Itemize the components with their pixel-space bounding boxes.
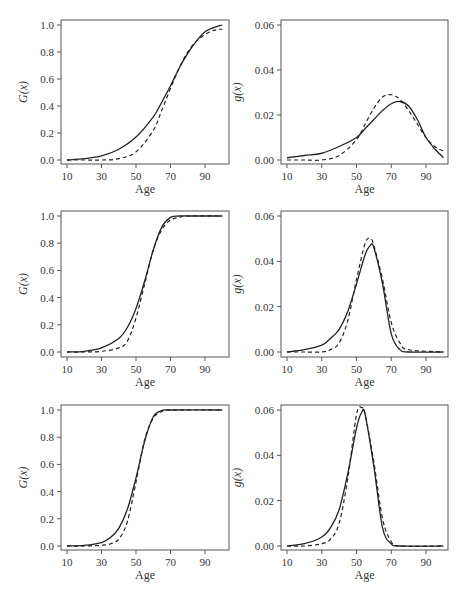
y-tick-label: 0.8 (40, 237, 54, 249)
y-axis-label: g(x) (230, 274, 244, 293)
y-axis-label: G(x) (16, 81, 30, 103)
x-tick-label: 30 (316, 170, 328, 182)
dashed-curve (287, 407, 443, 547)
x-tick-label: 90 (200, 363, 212, 375)
plot-frame (61, 405, 229, 550)
dashed-curve (67, 410, 222, 546)
y-tick-label: 0.6 (40, 264, 54, 276)
x-tick-label: 90 (421, 363, 433, 375)
x-tick-label: 70 (165, 556, 177, 568)
y-tick-label: 0.6 (40, 458, 54, 470)
y-tick-label: 1.0 (40, 404, 54, 416)
y-tick-label: 0.04 (255, 64, 275, 76)
solid-curve (67, 216, 222, 352)
x-tick-label: 10 (62, 170, 74, 182)
plot-frame (61, 20, 229, 164)
x-tick-label: 30 (96, 363, 108, 375)
plot-frame (281, 405, 448, 550)
y-tick-label: 0.00 (255, 540, 275, 552)
x-axis-label: Age (135, 375, 155, 389)
y-tick-label: 0.2 (40, 127, 54, 139)
x-tick-label: 10 (282, 170, 294, 182)
x-tick-label: 90 (421, 170, 433, 182)
y-axis-label: g(x) (230, 82, 244, 101)
y-tick-label: 0.0 (40, 154, 54, 166)
y-tick-label: 0.02 (255, 109, 274, 121)
y-axis-label: G(x) (16, 273, 30, 295)
solid-curve (67, 410, 222, 546)
y-tick-label: 0.8 (40, 431, 54, 443)
x-tick-label: 10 (282, 363, 294, 375)
x-tick-label: 50 (131, 556, 143, 568)
y-tick-label: 0.00 (255, 154, 275, 166)
x-tick-label: 70 (386, 556, 398, 568)
x-tick-label: 30 (316, 363, 328, 375)
x-tick-label: 70 (165, 363, 177, 375)
y-tick-label: 0.4 (40, 486, 54, 498)
x-tick-label: 90 (421, 556, 433, 568)
y-tick-label: 0.02 (255, 301, 274, 313)
plot-frame (281, 211, 448, 357)
y-tick-label: 0.06 (255, 210, 275, 222)
x-tick-label: 30 (96, 556, 108, 568)
x-axis-label: Age (135, 182, 155, 196)
x-axis-label: Age (355, 375, 375, 389)
y-tick-label: 0.4 (40, 100, 54, 112)
x-tick-label: 70 (165, 170, 177, 182)
x-tick-label: 70 (386, 170, 398, 182)
x-axis-label: Age (135, 568, 155, 582)
x-tick-label: 30 (96, 170, 108, 182)
chart-grid: 10305070900.00.20.40.60.81.0AgeG(x)10305… (0, 0, 464, 591)
dashed-curve (67, 29, 222, 160)
y-tick-label: 1.0 (40, 210, 54, 222)
y-tick-label: 0.04 (255, 449, 275, 461)
y-tick-label: 0.06 (255, 404, 275, 416)
y-tick-label: 1.0 (40, 19, 54, 31)
y-tick-label: 0.04 (255, 255, 275, 267)
solid-curve (67, 25, 222, 160)
solid-curve (287, 244, 443, 352)
x-tick-label: 90 (200, 170, 212, 182)
y-tick-label: 0.8 (40, 46, 54, 58)
x-axis-label: Age (355, 568, 375, 582)
y-tick-label: 0.6 (40, 73, 54, 85)
x-tick-label: 50 (351, 363, 363, 375)
y-tick-label: 0.0 (40, 346, 54, 358)
x-tick-label: 10 (62, 363, 74, 375)
plot-frame (61, 211, 229, 357)
y-tick-label: 0.0 (40, 540, 54, 552)
solid-curve (287, 409, 443, 546)
panel-row3-right: 10305070900.000.020.040.06Ageg(x) (230, 404, 448, 582)
x-tick-label: 50 (131, 363, 143, 375)
x-tick-label: 50 (351, 556, 363, 568)
panel-row2-left: 10305070900.00.20.40.60.81.0AgeG(x) (16, 210, 229, 389)
panel-row3-left: 10305070900.00.20.40.60.81.0AgeG(x) (16, 404, 229, 582)
panel-row1-left: 10305070900.00.20.40.60.81.0AgeG(x) (16, 19, 229, 196)
x-tick-label: 70 (386, 363, 398, 375)
y-tick-label: 0.2 (40, 319, 54, 331)
x-tick-label: 50 (131, 170, 143, 182)
y-tick-label: 0.02 (255, 495, 274, 507)
dashed-curve (67, 216, 222, 352)
x-tick-label: 30 (316, 556, 328, 568)
x-tick-label: 10 (282, 556, 294, 568)
x-axis-label: Age (355, 182, 375, 196)
y-tick-label: 0.2 (40, 513, 54, 525)
panel-row2-right: 10305070900.000.020.040.06Ageg(x) (230, 210, 448, 389)
x-tick-label: 90 (200, 556, 212, 568)
dashed-curve (287, 95, 443, 161)
panel-row1-right: 10305070900.000.020.040.06Ageg(x) (230, 19, 448, 196)
y-tick-label: 0.06 (255, 19, 275, 31)
y-axis-label: g(x) (230, 468, 244, 487)
x-tick-label: 10 (62, 556, 74, 568)
plot-frame (281, 20, 448, 164)
y-tick-label: 0.00 (255, 346, 275, 358)
y-tick-label: 0.4 (40, 292, 54, 304)
y-axis-label: G(x) (16, 467, 30, 489)
x-tick-label: 50 (351, 170, 363, 182)
solid-curve (287, 101, 443, 157)
